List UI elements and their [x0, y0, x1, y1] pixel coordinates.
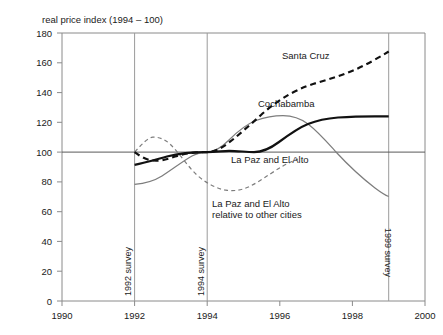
x-tick-label-1990: 1990 [51, 310, 72, 321]
chart-svg: 180 160 140 120 100 80 60 40 20 0 1990 1… [0, 0, 443, 335]
x-tick-label-1998: 1998 [342, 310, 363, 321]
y-tick-label-20: 20 [41, 266, 52, 277]
survey-label-1992: 1992 survey [123, 246, 133, 296]
series-label-cochabamba: Cochabamba [258, 98, 315, 109]
y-tick-label-140: 140 [36, 87, 52, 98]
x-tick-label-1992: 1992 [124, 310, 145, 321]
chart-figure: · · · · · · · real price index (1994 – 1… [0, 0, 443, 335]
y-tick-label-180: 180 [36, 28, 52, 39]
y-tick-label-100: 100 [36, 147, 52, 158]
series-label-la-paz: La Paz and El Alto [231, 154, 309, 165]
x-axis-ticks [62, 301, 425, 306]
series-label-santa-cruz: Santa Cruz [282, 50, 330, 61]
survey-label-1999: 1999 survey [383, 228, 393, 278]
y-tick-label-80: 80 [41, 176, 52, 187]
y-tick-label-120: 120 [36, 117, 52, 128]
x-tick-label-1994: 1994 [197, 310, 218, 321]
y-tick-label-160: 160 [36, 57, 52, 68]
y-tick-label-60: 60 [41, 206, 52, 217]
plot-frame [62, 33, 425, 301]
x-tick-label-1996: 1996 [269, 310, 290, 321]
y-tick-label-0: 0 [47, 296, 52, 307]
x-tick-label-2000: 2000 [414, 310, 435, 321]
y-axis-ticks [57, 33, 62, 301]
series-label-la-paz-relative-line2: relative to other cities [212, 209, 302, 220]
series-label-la-paz-relative-line1: La Paz and El Alto [212, 198, 290, 209]
y-tick-label-40: 40 [41, 236, 52, 247]
survey-label-1994: 1994 survey [196, 246, 206, 296]
